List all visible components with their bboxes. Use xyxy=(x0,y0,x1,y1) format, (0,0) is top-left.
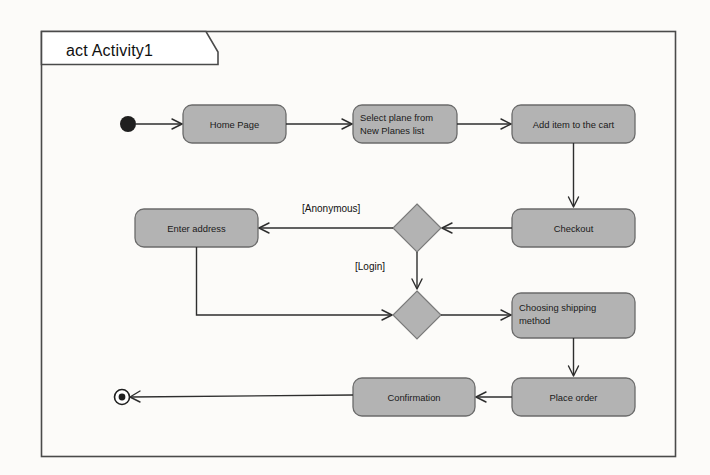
edge-enter-address-to-merge xyxy=(197,247,393,320)
guard-label-anonymous: [Anonymous] xyxy=(302,203,361,214)
edge-place-order-to-confirmation xyxy=(476,392,512,402)
initial-node[interactable] xyxy=(120,116,136,132)
action-label-select-plane-line2: New Planes list xyxy=(360,125,424,136)
frame-title: act Activity1 xyxy=(66,42,153,59)
action-label-place-order: Place order xyxy=(550,392,598,403)
action-label-choosing-shipping-line1: Choosing shipping xyxy=(519,302,596,313)
action-label-select-plane-line1: Select plane from xyxy=(360,112,433,123)
decision-node-login-check[interactable] xyxy=(393,204,441,252)
action-label-checkout: Checkout xyxy=(554,223,594,234)
action-label-add-item: Add item to the cart xyxy=(533,119,615,130)
edge-select-plane-to-add-item xyxy=(457,119,511,129)
action-label-choosing-shipping-line2: method xyxy=(519,315,550,326)
guard-label-login: [Login] xyxy=(355,261,385,272)
edge-checkout-to-decision xyxy=(442,223,512,233)
action-label-confirmation: Confirmation xyxy=(387,392,440,403)
edge-initial-to-home-page xyxy=(136,119,182,129)
edge-confirmation-to-final xyxy=(130,391,353,402)
final-node-center xyxy=(119,394,126,401)
edge-add-item-to-checkout xyxy=(569,143,579,207)
action-label-enter-address: Enter address xyxy=(167,223,226,234)
edge-choosing-shipping-to-place-order xyxy=(569,338,579,376)
edge-decision-to-merge xyxy=(412,252,422,289)
edge-decision-to-enter-address xyxy=(259,223,393,233)
edge-home-page-to-select-plane xyxy=(286,119,352,129)
action-label-home-page: Home Page xyxy=(210,119,260,130)
merge-node-paths-join[interactable] xyxy=(393,291,441,339)
edge-merge-to-choosing-shipping xyxy=(441,310,511,320)
activity-diagram-canvas: act Activity1 Home Page Select plane fro… xyxy=(0,0,710,475)
